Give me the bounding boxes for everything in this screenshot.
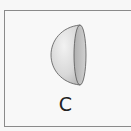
figure-label: C [0, 94, 131, 114]
hemisphere-icon [49, 23, 89, 87]
